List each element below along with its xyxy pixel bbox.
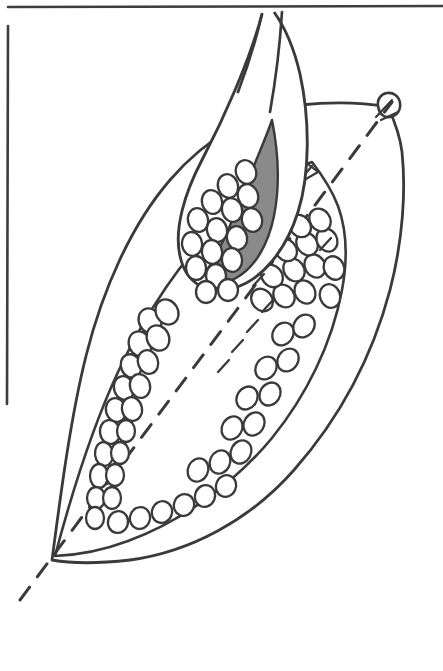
seed — [196, 281, 216, 303]
seed — [106, 464, 124, 486]
seed — [185, 255, 207, 280]
seed — [103, 487, 121, 509]
vertical-rule-left — [7, 26, 8, 404]
seed — [117, 420, 135, 442]
illustration-page: 1 パパイヤは4つ割りにし スプーンでタネをとる。 — [0, 0, 443, 671]
seed — [218, 279, 238, 301]
seed — [111, 442, 129, 464]
horizontal-rule-top — [8, 6, 443, 7]
caption-block: 1 パパイヤは4つ割りにし スプーンでタネをとる。 — [0, 566, 443, 671]
seed — [86, 507, 104, 529]
